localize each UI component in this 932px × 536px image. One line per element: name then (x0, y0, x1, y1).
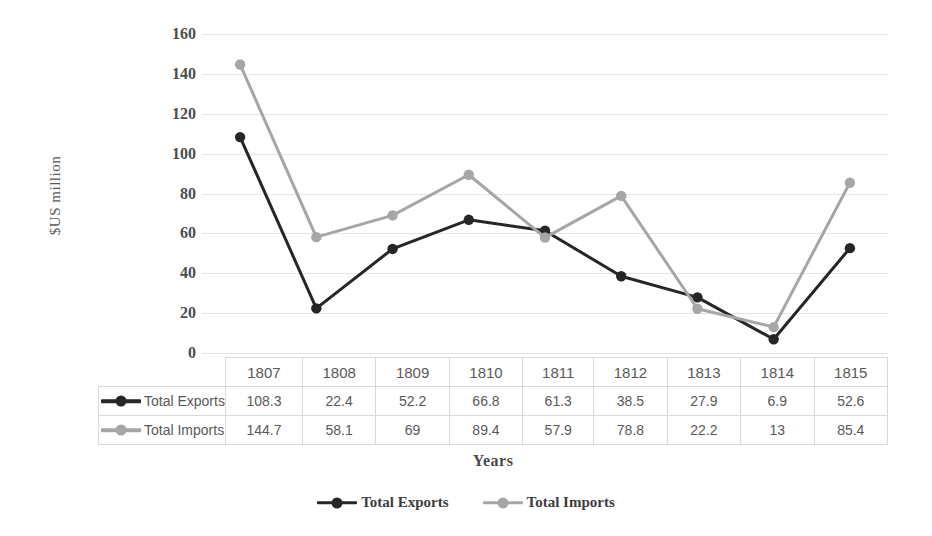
table-column-header: 1812 (594, 358, 667, 387)
data-point-marker (387, 210, 397, 220)
data-point-marker (616, 191, 626, 201)
y-tick-label-60: 60 (152, 224, 196, 242)
x-axis-title: Years (98, 452, 888, 470)
data-point-marker (768, 322, 778, 332)
series-line (240, 65, 850, 328)
y-axis-tick-labels: 020406080100120140160 (148, 34, 196, 353)
table-cell: 89.4 (449, 416, 522, 445)
table-cell: 52.2 (376, 387, 449, 416)
gridline-0 (202, 353, 888, 354)
table-column-header: 1807 (225, 358, 302, 387)
y-tick-label-140: 140 (152, 65, 196, 83)
series-symbol-dot (332, 497, 343, 508)
y-axis-title: $US million (44, 120, 68, 270)
table-cell: 22.4 (302, 387, 375, 416)
table-cell: 58.1 (302, 416, 375, 445)
table-cell: 6.9 (741, 387, 814, 416)
legend-item-label: Total Imports (527, 494, 615, 511)
table-cell: 57.9 (523, 416, 594, 445)
table-column-header: 1809 (376, 358, 449, 387)
table-cell: 144.7 (225, 416, 302, 445)
data-table: 180718081809181018111812181318141815Tota… (98, 357, 888, 445)
table-cell: 78.8 (594, 416, 667, 445)
table-row-label: Total Exports (144, 393, 225, 409)
series-total-imports (235, 59, 855, 332)
table-row-label: Total Imports (144, 422, 224, 438)
data-point-marker (464, 215, 474, 225)
data-point-marker (464, 170, 474, 180)
data-point-marker (387, 244, 397, 254)
y-tick-label-100: 100 (152, 145, 196, 163)
plot-area (202, 34, 888, 353)
table-column-header: 1811 (523, 358, 594, 387)
series-symbol-dot (116, 396, 127, 407)
table-row-header: Total Imports (99, 416, 226, 445)
series-symbol-icon (101, 424, 141, 436)
data-point-marker (845, 243, 855, 253)
table-cell: 22.2 (667, 416, 740, 445)
data-point-marker (311, 232, 321, 242)
data-point-marker (845, 178, 855, 188)
y-tick-label-20: 20 (152, 304, 196, 322)
chart-legend: Total ExportsTotal Imports (0, 494, 932, 511)
legend-item[interactable]: Total Imports (483, 494, 615, 511)
table-cell: 66.8 (449, 387, 522, 416)
table-cell: 13 (741, 416, 814, 445)
table-row-header-content: Total Imports (101, 422, 225, 438)
table-column-header: 1814 (741, 358, 814, 387)
table-row-header: Total Exports (99, 387, 226, 416)
table-cell: 52.6 (814, 387, 887, 416)
table-cell: 85.4 (814, 416, 887, 445)
series-symbol-icon (317, 497, 357, 509)
table-header-row: 180718081809181018111812181318141815 (99, 358, 888, 387)
y-tick-label-120: 120 (152, 105, 196, 123)
table-cell: 38.5 (594, 387, 667, 416)
chart-container: $US million 020406080100120140160 180718… (0, 0, 932, 536)
table-cell: 61.3 (523, 387, 594, 416)
data-point-marker (235, 132, 245, 142)
data-table-body: 180718081809181018111812181318141815Tota… (99, 358, 888, 445)
data-point-marker (235, 59, 245, 69)
table-row-header-content: Total Exports (101, 393, 225, 409)
table-cell: 27.9 (667, 387, 740, 416)
data-point-marker (311, 303, 321, 313)
series-layer (202, 34, 888, 353)
y-tick-label-80: 80 (152, 185, 196, 203)
table-row: Total Exports108.322.452.266.861.338.527… (99, 387, 888, 416)
y-tick-label-40: 40 (152, 264, 196, 282)
y-tick-label-160: 160 (152, 25, 196, 43)
table-column-header: 1810 (449, 358, 522, 387)
table-column-header: 1813 (667, 358, 740, 387)
y-axis-title-text: $US million (48, 155, 65, 234)
legend-item-label: Total Exports (361, 494, 448, 511)
table-cell: 108.3 (225, 387, 302, 416)
data-point-marker (692, 304, 702, 314)
series-symbol-dot (116, 425, 127, 436)
data-point-marker (540, 232, 550, 242)
table-corner-cell (99, 358, 226, 387)
table-column-header: 1808 (302, 358, 375, 387)
table-cell: 69 (376, 416, 449, 445)
series-symbol-dot (497, 497, 508, 508)
series-symbol-icon (483, 497, 523, 509)
table-column-header: 1815 (814, 358, 887, 387)
data-point-marker (616, 271, 626, 281)
data-point-marker (768, 334, 778, 344)
series-symbol-icon (101, 395, 141, 407)
table-row: Total Imports144.758.16989.457.978.822.2… (99, 416, 888, 445)
legend-item[interactable]: Total Exports (317, 494, 448, 511)
